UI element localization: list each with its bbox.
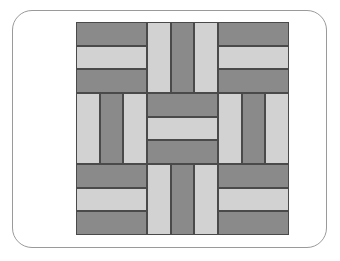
plank-light [218, 93, 242, 164]
plank-light [218, 188, 289, 212]
weave-block-vertical [147, 22, 218, 93]
plank-dark [171, 164, 195, 235]
plank-light [147, 22, 171, 93]
plank-dark [218, 211, 289, 235]
plank-dark [147, 140, 218, 164]
plank-dark [242, 93, 266, 164]
weave-block-horizontal [218, 164, 289, 235]
plank-light [194, 164, 218, 235]
weave-block-vertical [76, 93, 147, 164]
weave-block-horizontal [218, 22, 289, 93]
weave-block-horizontal [76, 164, 147, 235]
weave-block-horizontal [147, 93, 218, 164]
plank-light [218, 46, 289, 70]
figure-root [0, 0, 340, 261]
basket-weave-pattern [76, 22, 289, 235]
plank-dark [218, 69, 289, 93]
plank-light [147, 117, 218, 141]
plank-light [76, 46, 147, 70]
plank-dark [147, 93, 218, 117]
plank-dark [218, 22, 289, 46]
plank-dark [76, 211, 147, 235]
plank-dark [100, 93, 124, 164]
plank-dark [171, 22, 195, 93]
plank-light [76, 93, 100, 164]
plank-light [265, 93, 289, 164]
plank-dark [76, 22, 147, 46]
plank-light [76, 188, 147, 212]
plank-light [123, 93, 147, 164]
plank-light [147, 164, 171, 235]
plank-dark [76, 69, 147, 93]
plank-dark [76, 164, 147, 188]
plank-dark [218, 164, 289, 188]
weave-block-horizontal [76, 22, 147, 93]
plank-light [194, 22, 218, 93]
weave-block-vertical [218, 93, 289, 164]
weave-block-vertical [147, 164, 218, 235]
